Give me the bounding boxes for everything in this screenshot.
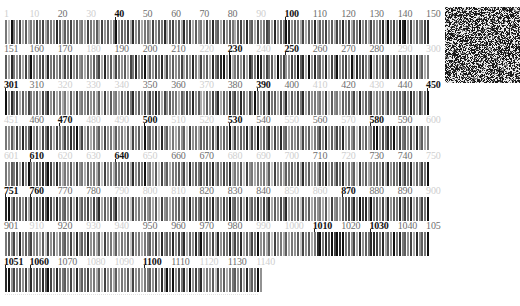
intensity-bar-strip [0,20,440,44]
intensity-bar [93,268,95,292]
intensity-bar [161,20,163,44]
intensity-bar [232,126,234,150]
intensity-bar [421,91,423,115]
intensity-bar [73,126,75,150]
intensity-bar [135,162,137,186]
intensity-bar [135,55,137,79]
intensity-bar [135,126,137,150]
intensity-bar [192,91,194,115]
intensity-bar [8,55,10,79]
intensity-bar [39,91,41,115]
intensity-bar [19,162,21,186]
intensity-bar [181,197,183,221]
intensity-bar [274,162,276,186]
position-label: 160 [29,43,43,54]
position-label: 870 [341,185,355,196]
intensity-bar [263,232,265,256]
intensity-bar [336,20,338,44]
intensity-bar [257,55,259,79]
intensity-bar [144,126,146,150]
intensity-bar [67,126,69,150]
intensity-bar [8,20,10,44]
intensity-bar [115,268,117,292]
intensity-bar [121,197,123,221]
intensity-bar [424,20,426,44]
intensity-bar [226,268,228,292]
intensity-bar [166,91,168,115]
intensity-bar [274,197,276,221]
intensity-bar [271,162,273,186]
intensity-bar [220,197,222,221]
intensity-bar [45,197,47,221]
intensity-bar [336,197,338,221]
intensity-bar [373,197,375,221]
intensity-bar [96,268,98,292]
intensity-bar [370,91,372,115]
intensity-bar [198,20,200,44]
position-label: 90 [256,8,266,19]
intensity-bar [291,91,293,115]
intensity-bar [251,197,253,221]
intensity-bar [47,91,49,115]
intensity-bar [331,232,333,256]
intensity-bar [104,91,106,115]
intensity-bar [192,55,194,79]
intensity-bar [237,20,239,44]
intensity-bar [158,232,160,256]
intensity-bar [404,197,406,221]
intensity-bar [280,232,282,256]
position-label: 990 [256,220,270,231]
intensity-bar [107,197,109,221]
intensity-bar [370,162,372,186]
intensity-bar [359,197,361,221]
intensity-bar [62,20,64,44]
intensity-bar [362,197,364,221]
intensity-bar [33,20,35,44]
intensity-bar [266,20,268,44]
intensity-bar [183,232,185,256]
position-label: 1090 [114,256,133,267]
intensity-bar [322,197,324,221]
intensity-bar [67,91,69,115]
intensity-bar [59,55,61,79]
intensity-bar [410,91,412,115]
intensity-bar [178,162,180,186]
intensity-bar [33,55,35,79]
intensity-bar [30,55,32,79]
intensity-bar [365,232,367,256]
intensity-bar [16,91,18,115]
intensity-bar [81,232,83,256]
intensity-bar [158,197,160,221]
intensity-bar [127,91,129,115]
intensity-bar [45,162,47,186]
intensity-bar [266,232,268,256]
intensity-bar [266,162,268,186]
intensity-bar [130,55,132,79]
intensity-bar [36,197,38,221]
intensity-bar [147,20,149,44]
intensity-bar [260,91,262,115]
intensity-bar [56,91,58,115]
intensity-bar [351,20,353,44]
intensity-bar [101,197,103,221]
intensity-bar [345,20,347,44]
intensity-bar [232,20,234,44]
intensity-bar [351,162,353,186]
intensity-bar [33,126,35,150]
intensity-bar [22,20,24,44]
position-label: 400 [284,79,298,90]
intensity-bar [365,91,367,115]
intensity-bar [217,162,219,186]
intensity-bar [198,197,200,221]
intensity-bar [328,20,330,44]
intensity-bar [67,197,69,221]
intensity-bar [232,162,234,186]
intensity-bar [300,232,302,256]
intensity-bar [70,126,72,150]
intensity-bar [249,232,251,256]
intensity-bar [421,20,423,44]
intensity-bar [53,197,55,221]
intensity-bar [178,126,180,150]
intensity-bar [288,20,290,44]
position-label: 60 [171,8,181,19]
